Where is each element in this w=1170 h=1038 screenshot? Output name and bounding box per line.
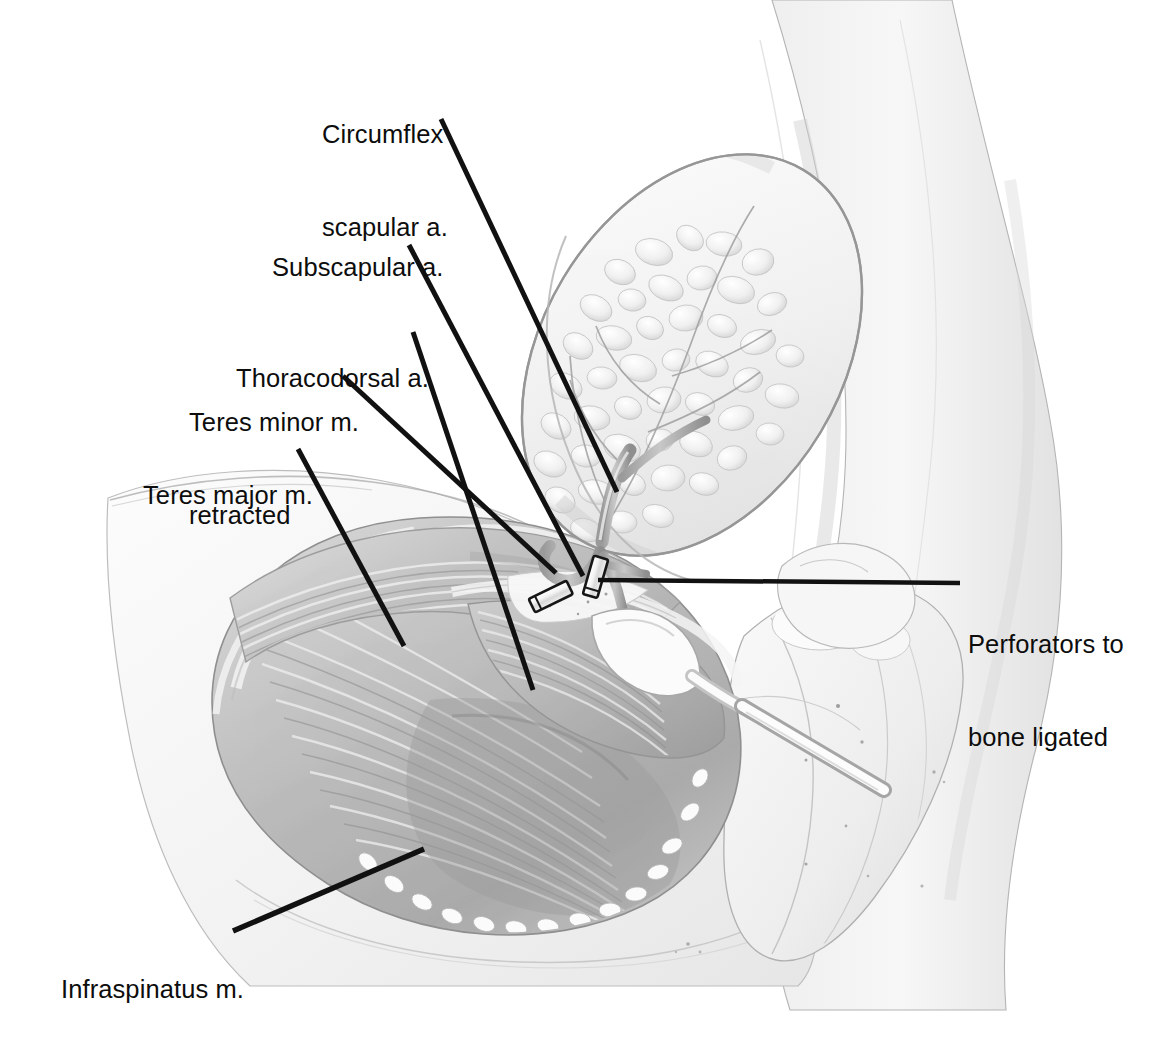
label-teres-major: Teres major m. bbox=[143, 418, 313, 573]
label-line: Teres major m. bbox=[143, 480, 313, 511]
illustration-canvas: Circumflex scapular a. Subscapular a. Th… bbox=[0, 0, 1170, 1038]
leader-perforators bbox=[598, 580, 960, 583]
label-line: Subscapular a. bbox=[272, 252, 444, 283]
label-infraspinatus: Infraspinatus m. bbox=[61, 912, 244, 1038]
label-line: Perforators to bbox=[968, 629, 1124, 660]
label-perforators-to-bone-ligated: Perforators to bone ligated bbox=[968, 567, 1124, 815]
label-line: Infraspinatus m. bbox=[61, 974, 244, 1005]
label-line: bone ligated bbox=[968, 722, 1124, 753]
label-line: Circumflex bbox=[322, 119, 448, 150]
